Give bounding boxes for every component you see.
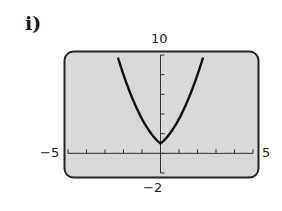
ymax-label: 10	[151, 31, 168, 46]
xmax-label: 5	[262, 145, 270, 160]
graphing-calculator-screen	[0, 0, 282, 211]
xmin-label: −5	[40, 145, 59, 160]
ymin-label: −2	[143, 180, 162, 195]
